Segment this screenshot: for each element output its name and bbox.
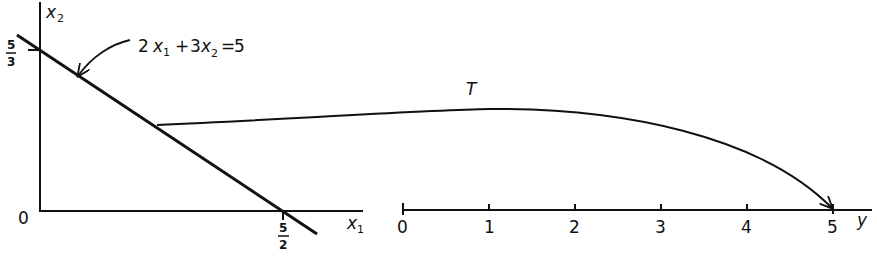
y-tick-label-4: 4 bbox=[741, 217, 752, 237]
y-axis-label: y bbox=[856, 210, 868, 230]
svg-text:3: 3 bbox=[190, 36, 201, 56]
left-plot: x 2 x 1 0 5 3 5 2 2 x 1 + 3 bbox=[6, 2, 364, 252]
svg-text:2: 2 bbox=[211, 47, 218, 60]
svg-text:2: 2 bbox=[138, 36, 149, 56]
x2-axis-subscript: 2 bbox=[57, 12, 64, 25]
mapping-T: T bbox=[157, 79, 832, 208]
x2-axis-label: x bbox=[45, 2, 57, 22]
x-intercept-fraction: 5 2 bbox=[278, 221, 289, 252]
constraint-line bbox=[17, 35, 317, 234]
svg-text:1: 1 bbox=[163, 46, 170, 59]
constraint-pointer-arrow bbox=[78, 40, 130, 76]
svg-text:5: 5 bbox=[234, 36, 245, 56]
svg-text:5: 5 bbox=[7, 38, 15, 52]
svg-text:5: 5 bbox=[279, 221, 287, 235]
y-tick-label-1: 1 bbox=[484, 217, 495, 237]
origin-label: 0 bbox=[18, 208, 29, 228]
y-tick-label-0: 0 bbox=[397, 217, 408, 237]
svg-text:+: + bbox=[175, 36, 189, 56]
diagram-canvas: x 2 x 1 0 5 3 5 2 2 x 1 + 3 bbox=[0, 0, 877, 278]
svg-text:2: 2 bbox=[279, 238, 287, 252]
y-intercept-fraction: 5 3 bbox=[6, 38, 16, 69]
y-tick-label-3: 3 bbox=[655, 217, 666, 237]
constraint-equation-label: 2 x 1 + 3 x 2 = 5 bbox=[138, 36, 245, 60]
y-tick-label-5: 5 bbox=[827, 217, 838, 237]
mapping-label: T bbox=[466, 79, 478, 99]
x1-axis-subscript: 1 bbox=[357, 223, 364, 236]
svg-text:3: 3 bbox=[7, 55, 15, 69]
y-tick-label-2: 2 bbox=[569, 217, 580, 237]
mapping-curve bbox=[157, 109, 832, 208]
y-number-line: 0 1 2 3 4 5 y bbox=[397, 203, 872, 237]
